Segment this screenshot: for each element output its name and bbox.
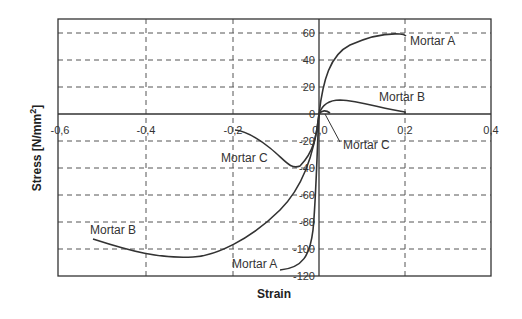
svg-text:-60: -60 (299, 189, 315, 201)
label-mortar-b-top: Mortar B (379, 90, 425, 104)
svg-text:0,2: 0,2 (397, 124, 412, 136)
label-mortar-b-bottom: Mortar B (90, 223, 136, 237)
svg-text:0,4: 0,4 (483, 124, 498, 136)
svg-text:0: 0 (309, 108, 315, 120)
svg-text:0,0: 0,0 (312, 124, 327, 136)
label-mortar-a-top: Mortar A (410, 34, 455, 48)
svg-text:-100: -100 (293, 243, 315, 255)
label-mortar-c-left: Mortar C (221, 151, 268, 165)
svg-text:-0,4: -0,4 (137, 124, 156, 136)
svg-text:60: 60 (303, 27, 315, 39)
x-axis-title: Strain (257, 287, 291, 301)
svg-text:-0,6: -0,6 (51, 124, 70, 136)
x-tick-labels: -0,6 -0,4 -0,2 0,0 0,2 0,4 (51, 124, 499, 136)
svg-text:-120: -120 (293, 270, 315, 282)
svg-text:20: 20 (303, 81, 315, 93)
y-axis-title: Stress [N/mm2] (28, 105, 44, 191)
stress-strain-chart: 60 40 20 0 -20 -40 -60 -80 -100 -120 -0,… (0, 0, 522, 319)
series-labels: Mortar A Mortar B Mortar C Mortar C Mort… (90, 34, 455, 271)
label-mortar-a-bottom: Mortar A (232, 257, 277, 271)
plot-frame (58, 19, 491, 276)
svg-text:40: 40 (303, 54, 315, 66)
grid-lines (58, 19, 491, 276)
label-mortar-c-top: Mortar C (343, 138, 390, 152)
